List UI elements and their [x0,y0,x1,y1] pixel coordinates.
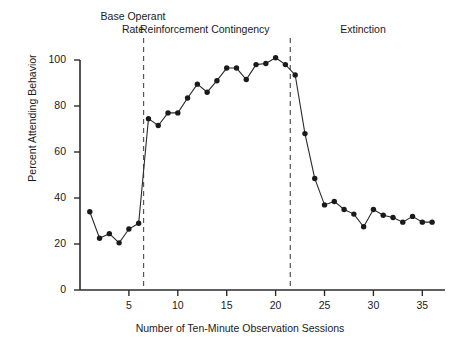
data-point [351,211,356,216]
data-point [214,78,219,83]
axis-lines [80,60,445,290]
data-point [165,110,170,115]
data-point [420,219,425,224]
data-point [87,209,92,214]
data-point [126,226,131,231]
y-axis-ticks [74,60,80,290]
phase-divider-lines [144,38,291,288]
data-point [410,214,415,219]
x-axis-ticks [129,290,422,296]
data-point [332,199,337,204]
data-point [204,90,209,95]
data-point [371,207,376,212]
data-point [312,176,317,181]
data-point [234,65,239,70]
data-point [273,55,278,60]
data-point [253,62,258,67]
data-point [156,123,161,128]
data-point [136,221,141,226]
data-point [429,219,434,224]
data-point [390,215,395,220]
data-point [97,236,102,241]
data-point [185,95,190,100]
data-point [107,231,112,236]
data-point [175,110,180,115]
data-point [341,207,346,212]
chart-figure: Base Operant Rate Reinforcement Continge… [0,0,449,343]
data-point [146,116,151,121]
data-point [116,240,121,245]
data-point [381,213,386,218]
data-point [361,224,366,229]
data-point [263,61,268,66]
data-point [400,219,405,224]
data-point [322,202,327,207]
data-point [195,81,200,86]
plot-area [0,0,449,343]
data-point [283,62,288,67]
data-point [302,131,307,136]
data-point [244,77,249,82]
data-point [292,72,297,77]
data-point [224,65,229,70]
